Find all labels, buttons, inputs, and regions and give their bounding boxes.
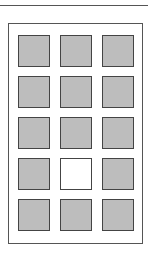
- filled-tile[interactable]: [18, 76, 50, 108]
- empty-tile[interactable]: [60, 158, 92, 190]
- filled-tile[interactable]: [18, 158, 50, 190]
- filled-tile[interactable]: [102, 35, 134, 67]
- filled-tile[interactable]: [60, 117, 92, 149]
- filled-tile[interactable]: [60, 199, 92, 231]
- tile-grid: [18, 35, 134, 231]
- filled-tile[interactable]: [102, 158, 134, 190]
- top-divider: [0, 5, 148, 6]
- filled-tile[interactable]: [60, 35, 92, 67]
- filled-tile[interactable]: [102, 76, 134, 108]
- filled-tile[interactable]: [18, 199, 50, 231]
- grid-panel: [8, 23, 143, 244]
- filled-tile[interactable]: [102, 199, 134, 231]
- filled-tile[interactable]: [60, 76, 92, 108]
- filled-tile[interactable]: [18, 117, 50, 149]
- filled-tile[interactable]: [102, 117, 134, 149]
- filled-tile[interactable]: [18, 35, 50, 67]
